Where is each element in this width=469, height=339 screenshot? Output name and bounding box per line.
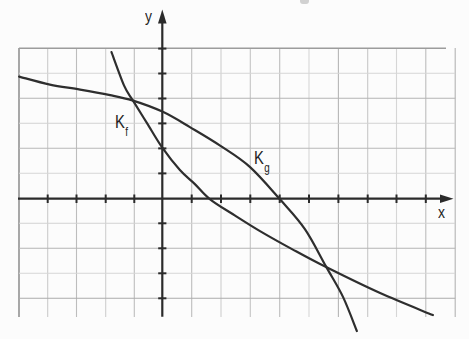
y-axis (158, 10, 167, 317)
y-axis-arrowhead (158, 10, 167, 24)
grid (19, 48, 455, 317)
curve-kf-label-sub: f (125, 125, 128, 139)
curve-kg (19, 77, 357, 332)
scan-artifact (300, 0, 309, 4)
curve-kf-label-main: K (115, 112, 125, 132)
graph-figure: y x Kf Kg (0, 0, 469, 339)
x-axis-label: x (438, 204, 445, 221)
curve-kg-label-main: K (254, 148, 264, 168)
x-axis-arrowhead (440, 194, 454, 203)
curve-kf-label: Kf (115, 113, 128, 135)
curve-kf (112, 52, 433, 315)
graph-canvas (0, 0, 469, 339)
y-axis-label: y (145, 8, 152, 25)
curve-kg-label: Kg (254, 149, 269, 171)
x-axis (18, 194, 454, 203)
curve-kg-label-sub: g (264, 161, 269, 175)
